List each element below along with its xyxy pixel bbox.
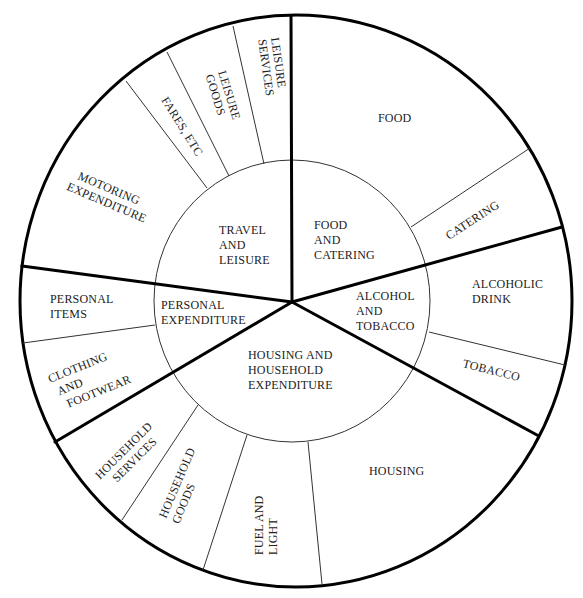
divider-personal-clothing (23, 325, 155, 343)
spoke-travel-food (291, 16, 292, 302)
label-food-and-catering: FOOD AND CATERING (314, 218, 375, 262)
divider-housing-fuel (308, 442, 322, 584)
label-leisure-services: LEISURE SERVICES (255, 36, 290, 97)
label-housing-and-household: HOUSING AND HOUSEHOLD EXPENDITURE (248, 348, 336, 392)
label-household-services: HOUSEHOLD SERVICES (92, 417, 167, 492)
label-personal-items: PERSONAL ITEMS (50, 292, 116, 321)
label-personal-expenditure: PERSONAL EXPENDITURE (161, 298, 246, 327)
label-tobacco: TOBACCO (461, 356, 521, 384)
label-alcohol-and-tobacco: ALCOHOL AND TOBACCO (356, 289, 418, 333)
expenditure-diagram: FOOD AND CATERING ALCOHOL AND TOBACCO HO… (0, 0, 583, 598)
label-housing: HOUSING (369, 464, 425, 478)
label-fares-etc: FARES, ETC (158, 94, 205, 158)
divider-alcohol-tobacco (429, 332, 565, 365)
label-fuel-and-light: FUEL AND LIGHT (252, 492, 280, 555)
label-travel-and-leisure: TRAVEL AND LEISURE (219, 223, 270, 267)
label-alcoholic-drink: ALCOHOLIC DRINK (472, 277, 546, 306)
label-leisure-goods: LEISURE GOODS (203, 69, 245, 128)
label-motoring-expenditure: MOTORING EXPENDITURE (65, 167, 154, 226)
label-food: FOOD (378, 111, 412, 125)
divider-fuel-goods (203, 435, 247, 570)
label-catering: CATERING (443, 198, 502, 243)
